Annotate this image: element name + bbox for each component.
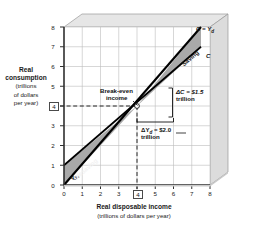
delta-yd-label-line2: trillion — [141, 133, 160, 140]
consumption-curve-label: C — [206, 52, 210, 59]
x-axis-title: Real disposable income (trillions of dol… — [44, 203, 224, 220]
delta-c-label-line2: trillion — [176, 95, 195, 102]
x-tick-0: 0 — [59, 190, 69, 197]
x-tick-3: 3 — [114, 190, 124, 197]
y-tick-3: 3 — [48, 122, 58, 129]
line-45-curve-label-text: C = Y — [196, 25, 211, 32]
y-tick-8: 8 — [48, 24, 58, 31]
y-tick-2: 2 — [48, 142, 58, 149]
figure-container: Real consumption (trillions of dollars p… — [0, 0, 257, 226]
x-axis-title-line1: Real disposable income — [44, 203, 224, 212]
line-45-curve-label-sub: d — [211, 29, 214, 34]
line-45-curve-label: C = Yd — [196, 25, 214, 36]
x-tick-1: 1 — [77, 190, 87, 197]
x-tick-5: 5 — [150, 190, 160, 197]
y-tick-1: 1 — [48, 162, 58, 169]
y-axis-title-line3: (trillions — [0, 82, 52, 90]
delta-yd-value: = $2.0 — [152, 126, 171, 133]
x-tick-2: 2 — [96, 190, 106, 197]
x-axis-title-line2: (trillions of dollars per year) — [44, 212, 224, 221]
y-tick-5: 5 — [48, 83, 58, 90]
y-tick-6: 6 — [48, 63, 58, 70]
chart-canvas — [0, 0, 257, 226]
y-tick-7: 7 — [48, 43, 58, 50]
x-tick-7: 7 — [187, 190, 197, 197]
x-tick-6: 6 — [169, 190, 179, 197]
y-axis-title-line1: Real — [0, 66, 52, 74]
y-axis-title-line2: consumption — [0, 74, 52, 82]
break-even-label-line2: income — [106, 94, 127, 101]
y-axis-title: Real consumption (trillions of dollars p… — [0, 66, 52, 107]
x-tick-4-highlighted: 4 — [133, 190, 143, 199]
x-tick-8: 8 — [205, 190, 215, 197]
y-axis-title-line5: per year) — [0, 99, 52, 107]
y-tick-4-highlighted: 4 — [49, 102, 59, 111]
frame-right-face — [210, 14, 228, 185]
breakeven-point-marker — [135, 104, 140, 109]
y-axis-title-line4: of dollars — [0, 91, 52, 99]
y-tick-0: 0 — [48, 182, 58, 189]
